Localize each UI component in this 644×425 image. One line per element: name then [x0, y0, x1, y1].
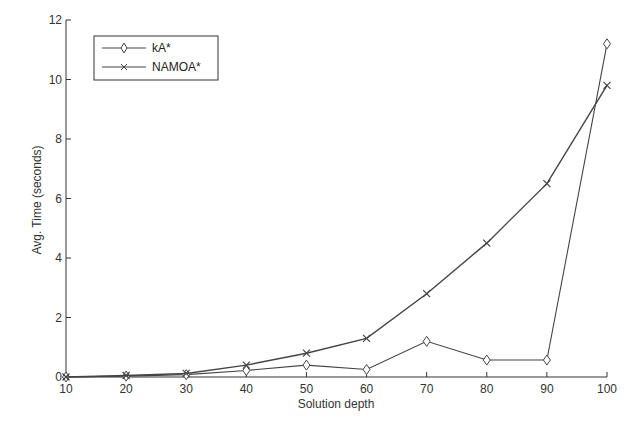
diamond-marker-icon [423, 336, 430, 346]
x-marker-icon [604, 82, 611, 89]
diamond-marker-icon [483, 355, 490, 365]
x-tick-label: 70 [420, 382, 434, 396]
series-line [66, 85, 607, 377]
legend-label: kA* [152, 41, 171, 55]
series-line [66, 44, 607, 377]
x-marker-icon [423, 290, 430, 297]
diamond-marker-icon [303, 360, 310, 370]
diamond-marker-icon [604, 39, 611, 49]
x-tick-label: 20 [119, 382, 133, 396]
x-tick-label: 10 [59, 382, 73, 396]
x-tick-label: 90 [540, 382, 554, 396]
y-tick-label: 2 [55, 311, 62, 325]
diamond-marker-icon [543, 355, 550, 365]
y-tick-label: 0 [55, 370, 62, 384]
y-tick-label: 4 [55, 251, 62, 265]
series-layer [63, 39, 611, 382]
y-tick-label: 8 [55, 132, 62, 146]
diamond-marker-icon [363, 365, 370, 375]
y-tick-label: 12 [49, 13, 63, 27]
x-tick-label: 80 [480, 382, 494, 396]
legend-label: NAMOA* [152, 60, 201, 74]
series-ka [63, 39, 611, 382]
y-tick-label: 6 [55, 192, 62, 206]
x-tick-label: 60 [360, 382, 374, 396]
x-tick-label: 50 [300, 382, 314, 396]
x-marker-icon [543, 180, 550, 187]
x-tick-label: 100 [597, 382, 617, 396]
y-tick-label: 10 [49, 73, 63, 87]
x-tick-label: 40 [240, 382, 254, 396]
y-axis-title: Avg. Time (seconds) [30, 145, 44, 254]
x-tick-label: 30 [180, 382, 194, 396]
line-chart: 102030405060708090100024681012 kA* NAMOA… [0, 0, 644, 425]
legend: kA* NAMOA* [94, 36, 218, 80]
x-marker-icon [483, 240, 490, 247]
series-namoa [63, 82, 611, 381]
x-axis-title: Solution depth [298, 397, 375, 411]
